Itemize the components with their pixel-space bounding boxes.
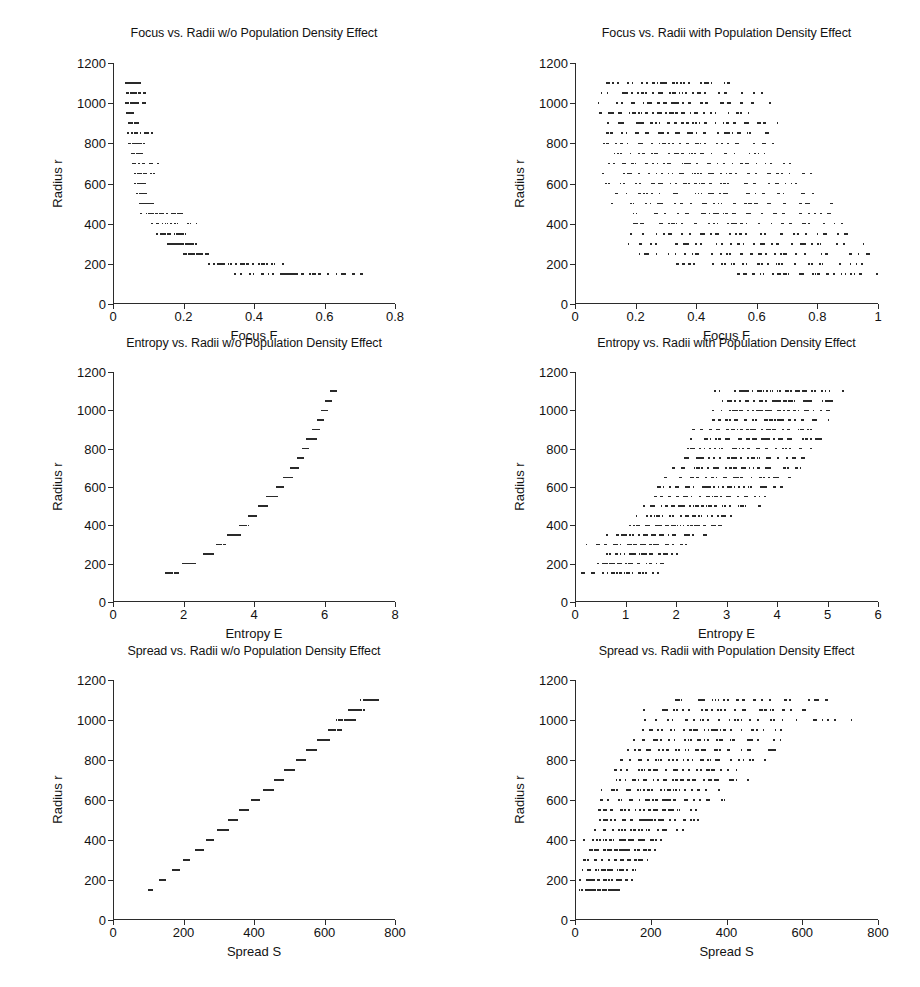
data-point (750, 253, 752, 255)
data-point (310, 438, 312, 440)
data-point (781, 419, 783, 421)
data-point (625, 534, 627, 536)
data-point (615, 544, 617, 546)
data-point (679, 143, 681, 145)
data-point (631, 839, 634, 841)
data-point (815, 273, 817, 275)
data-point (134, 102, 136, 104)
data-point (330, 390, 333, 392)
data-point (825, 253, 827, 255)
y-tick-entropy-without-0 (108, 602, 113, 603)
data-point (647, 759, 649, 761)
data-point (621, 849, 624, 851)
data-point (760, 400, 763, 402)
data-point (782, 233, 784, 235)
data-point (262, 273, 264, 275)
data-point (750, 429, 753, 431)
data-point (240, 273, 242, 275)
data-point (605, 839, 607, 841)
y-tick-focus-without-4 (108, 143, 113, 144)
data-point (687, 132, 691, 134)
x-tick-focus-without-1 (184, 304, 185, 309)
data-point (604, 879, 606, 881)
data-point (800, 467, 802, 469)
data-point (618, 563, 620, 565)
data-point (128, 112, 130, 114)
data-point (658, 553, 661, 555)
data-point (797, 390, 800, 392)
data-point (606, 563, 608, 565)
data-point (732, 739, 735, 741)
data-point (709, 448, 711, 450)
data-point (747, 448, 750, 450)
data-point (680, 544, 682, 546)
data-point (720, 496, 722, 498)
data-point (330, 390, 333, 392)
data-point (630, 799, 632, 801)
data-point (294, 467, 296, 469)
data-point (638, 534, 640, 536)
y-tick-focus-without-3 (108, 184, 113, 185)
data-point (668, 233, 670, 235)
data-point (216, 544, 218, 546)
data-point (585, 889, 587, 891)
y-tick-focus-without-0 (108, 304, 113, 305)
data-point (638, 749, 641, 751)
data-point (670, 183, 672, 185)
data-point (341, 719, 343, 721)
data-point (592, 839, 594, 841)
data-point (660, 183, 663, 185)
data-point (650, 122, 653, 124)
data-point (756, 410, 759, 412)
data-point (719, 719, 721, 721)
data-point (239, 525, 241, 527)
data-point (287, 477, 289, 479)
data-point (668, 153, 670, 155)
x-tick-entropy-with-3 (727, 602, 728, 607)
data-point (645, 525, 647, 527)
data-point (642, 233, 644, 235)
data-point (617, 82, 619, 84)
data-point (629, 799, 632, 801)
data-point (183, 243, 185, 245)
data-point (805, 400, 809, 402)
data-point (603, 889, 605, 891)
data-point (656, 173, 658, 175)
data-point (772, 143, 774, 145)
data-point (711, 173, 714, 175)
data-point (633, 102, 635, 104)
data-point (674, 729, 676, 731)
data-point (718, 203, 720, 205)
data-point (165, 233, 167, 235)
data-point (300, 759, 302, 761)
data-point (783, 163, 785, 165)
data-point (808, 699, 810, 701)
data-point (290, 477, 294, 479)
data-point (706, 769, 709, 771)
data-point (217, 829, 220, 831)
data-point (643, 544, 646, 546)
data-point (718, 92, 720, 94)
data-point (671, 505, 675, 507)
data-point (642, 729, 644, 731)
data-point (608, 859, 610, 861)
data-point (312, 273, 316, 275)
data-point (721, 496, 723, 498)
data-point (769, 419, 773, 421)
data-point (764, 233, 766, 235)
data-point (175, 572, 177, 574)
y-axis-label-entropy-with: Radius r (512, 372, 527, 602)
data-point (150, 173, 153, 175)
data-point (668, 739, 670, 741)
data-point (685, 486, 688, 488)
data-point (348, 709, 350, 711)
data-point (740, 253, 743, 255)
data-point (727, 749, 729, 751)
data-point (633, 525, 635, 527)
data-point (710, 112, 712, 114)
data-point (704, 448, 706, 450)
data-point (319, 739, 321, 741)
data-point (825, 699, 828, 701)
data-point (856, 263, 858, 265)
data-point (656, 769, 658, 771)
